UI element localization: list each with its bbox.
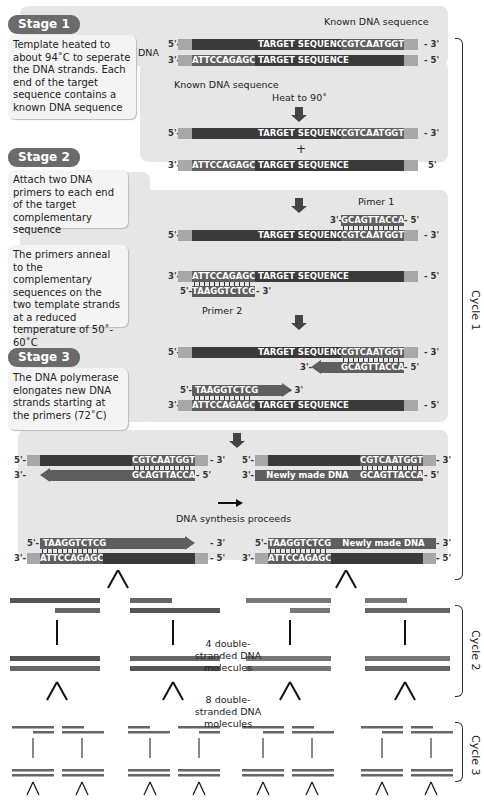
target-seq-label: TARGET SEQUENCE bbox=[258, 347, 349, 358]
end-3: - 3' bbox=[424, 347, 439, 358]
stage1-tag: Stage 1 bbox=[8, 15, 80, 34]
right-arrowhead-icon bbox=[236, 499, 243, 507]
target-seq-label: TARGET SEQUENCE bbox=[258, 39, 349, 50]
strand-cap bbox=[178, 347, 192, 358]
known-seq-top: CGTCAATGGT bbox=[341, 347, 404, 358]
strand-cap bbox=[404, 400, 418, 411]
known-seq-bottom: ATTCCAGAGC bbox=[192, 400, 255, 411]
end-3: 3'- bbox=[242, 470, 254, 481]
primer1-label: Pimer 1 bbox=[358, 196, 394, 207]
primer2: TAAGGTCTCG bbox=[40, 538, 185, 549]
stage3-tag: Stage 3 bbox=[8, 348, 80, 367]
end-3: - 3' bbox=[424, 128, 439, 139]
primer2: TAAGGTCTCG bbox=[192, 286, 255, 297]
end-3: - 3' bbox=[436, 538, 451, 549]
known-seq-top: CGTCAATGGT bbox=[360, 455, 423, 466]
target-seq-label: TARGET SEQUENCE bbox=[258, 400, 349, 411]
strand-cap bbox=[178, 160, 192, 171]
elongation-arrow-left-icon bbox=[40, 468, 50, 482]
end-3: - 3' bbox=[288, 385, 303, 396]
target-seq-label: TARGET SEQUENCE bbox=[258, 160, 349, 171]
target-seq-label: TARGET SEQUENCE bbox=[258, 128, 349, 139]
end-5: - 5' bbox=[424, 271, 439, 282]
down-arrow-icon bbox=[295, 315, 303, 323]
strand-cap bbox=[404, 271, 418, 282]
end-3: 3'- bbox=[14, 470, 26, 481]
down-arrow-icon bbox=[295, 107, 303, 115]
stage1-panel-lower bbox=[140, 60, 448, 162]
primer1: GCAGTTACCA bbox=[132, 470, 195, 481]
known-seq-bottom-label: Known DNA sequence bbox=[174, 79, 279, 90]
end-5: - 5' bbox=[424, 470, 439, 481]
end-5: - 5' bbox=[210, 553, 225, 564]
down-arrow-icon bbox=[233, 433, 241, 441]
strand-cap bbox=[404, 160, 418, 171]
known-seq-bottom: ATTCCAGAGC bbox=[268, 553, 331, 564]
right-arrow-icon bbox=[218, 502, 238, 504]
eight-molecules-label: 8 double-stranded DNA molecules bbox=[188, 694, 268, 730]
known-seq-bottom: ATTCCAGAGC bbox=[192, 271, 255, 282]
end-5: 5'- bbox=[180, 385, 192, 396]
end-3: - 3' bbox=[424, 39, 439, 50]
plus-sign: + bbox=[296, 142, 306, 156]
strand-cap bbox=[27, 455, 40, 466]
cycle1-brace bbox=[455, 38, 463, 580]
known-seq-bottom: ATTCCAGAGC bbox=[40, 553, 103, 564]
primer2-label: Primer 2 bbox=[202, 305, 242, 316]
target-seq-label: TARGET SEQUENCE bbox=[258, 271, 349, 282]
primer2: TAAGGTCTCG bbox=[192, 385, 282, 396]
strand-cap bbox=[178, 271, 192, 282]
elongation-arrow-right-icon bbox=[185, 536, 195, 550]
newly-made-dna: Newly made DNA bbox=[331, 538, 436, 549]
strand-cap bbox=[178, 39, 192, 50]
split-arrows-icon bbox=[0, 570, 484, 800]
dna-label: DNA bbox=[138, 47, 159, 58]
end-5: 5'- bbox=[242, 455, 254, 466]
synthesis-label: DNA synthesis proceeds bbox=[176, 513, 291, 524]
stage2-tag: Stage 2 bbox=[8, 148, 80, 167]
strand-cap bbox=[404, 128, 418, 139]
known-seq-top: CGTCAATGGT bbox=[341, 128, 404, 139]
primer1: GCAGTTACCA bbox=[341, 215, 404, 226]
four-molecules-label: 4 double-stranded DNA molecules bbox=[188, 638, 268, 674]
strand-cap bbox=[404, 230, 418, 241]
end-5: - 5' bbox=[196, 470, 211, 481]
primer1: GCAGTTACCA bbox=[360, 470, 423, 481]
heat-label: Heat to 90˚ bbox=[272, 92, 327, 103]
elongation-arrow-left-icon bbox=[311, 360, 321, 374]
strand-cap bbox=[404, 347, 418, 358]
end-3: 3'- bbox=[242, 553, 254, 564]
strand-cap bbox=[404, 39, 418, 50]
stage1-description: Template heated to about 94˚C to seperat… bbox=[8, 35, 136, 119]
known-seq-top: CGTCAATGGT bbox=[341, 230, 404, 241]
known-seq-top: CGTCAATGGT bbox=[341, 39, 404, 50]
end-5: - 5' bbox=[404, 215, 419, 226]
strand-cap bbox=[423, 553, 436, 564]
strand-cap bbox=[27, 553, 40, 564]
end-5: - 5' bbox=[404, 362, 419, 373]
strand-cap bbox=[195, 553, 208, 564]
known-seq-bottom: ATTCCAGAGC bbox=[192, 160, 255, 171]
target-seq-label: TARGET SEQUENCE bbox=[258, 230, 349, 241]
strand-cap bbox=[404, 55, 418, 66]
end-3: - 3' bbox=[210, 455, 225, 466]
known-seq-top-label: Known DNA sequence bbox=[324, 16, 429, 27]
strand-cap bbox=[423, 455, 436, 466]
end-3: - 3' bbox=[424, 230, 439, 241]
end-5: 5'- bbox=[255, 538, 267, 549]
end-5: 5' bbox=[428, 160, 437, 171]
primer1: GCAGTTACCA bbox=[341, 362, 404, 373]
stage3-description: The DNA polymerase elongates new DNA str… bbox=[8, 368, 128, 430]
strand-cap bbox=[255, 455, 268, 466]
end-5: - 5' bbox=[436, 553, 451, 564]
elongating-strand-left bbox=[321, 362, 341, 373]
strand-cap bbox=[255, 553, 268, 564]
end-5: - 5' bbox=[424, 400, 439, 411]
end-5: - 5' bbox=[424, 55, 439, 66]
newly-made-dna: Newly made DNA bbox=[255, 470, 360, 481]
stage2-anneal-description: The primers anneal to the complementary … bbox=[8, 245, 128, 327]
cycle1-label: Cycle 1 bbox=[469, 290, 482, 331]
known-seq-bottom: ATTCCAGAGC bbox=[192, 55, 255, 66]
known-seq-top: CGTCAATGGT bbox=[132, 455, 195, 466]
end-5: 5'- bbox=[27, 538, 39, 549]
